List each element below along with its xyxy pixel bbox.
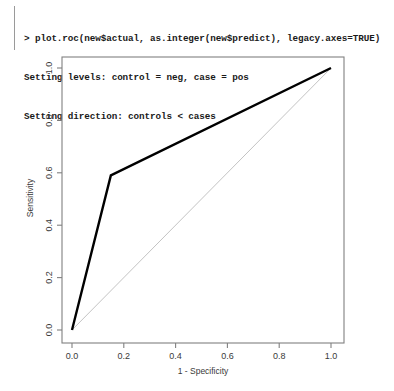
y-axis-title: Sensitivity <box>25 178 35 217</box>
roc-plot-svg: 0.00.20.40.60.81.0 0.00.20.40.60.81.0 1 … <box>0 46 394 391</box>
x-tick-label: 0.8 <box>273 351 286 361</box>
console-gutter-line <box>14 6 15 50</box>
x-tick-label: 0.6 <box>221 351 234 361</box>
x-tick-label: 0.0 <box>66 351 79 361</box>
console-line-command: > plot.roc(new$actual, as.integer(new$pr… <box>24 32 380 45</box>
data-series-group <box>72 68 331 330</box>
y-tick-label: 0.0 <box>44 324 54 337</box>
y-tick-label: 0.4 <box>44 219 54 232</box>
roc-plot: 0.00.20.40.60.81.0 0.00.20.40.60.81.0 1 … <box>0 46 394 391</box>
r-console-output: > plot.roc(new$actual, as.integer(new$pr… <box>0 0 394 52</box>
x-tick-label: 0.4 <box>169 351 182 361</box>
x-tick-label: 0.2 <box>118 351 131 361</box>
y-tick-label: 1.0 <box>44 62 54 75</box>
x-tick-label: 1.0 <box>325 351 338 361</box>
y-axis: 0.00.20.40.60.81.0 <box>44 62 62 337</box>
y-tick-label: 0.8 <box>44 114 54 127</box>
y-tick-label: 0.2 <box>44 271 54 284</box>
x-axis-title: 1 - Specificity <box>178 366 229 376</box>
x-axis: 0.00.20.40.60.81.0 <box>66 343 338 361</box>
y-tick-label: 0.6 <box>44 167 54 180</box>
series-line <box>72 68 331 330</box>
